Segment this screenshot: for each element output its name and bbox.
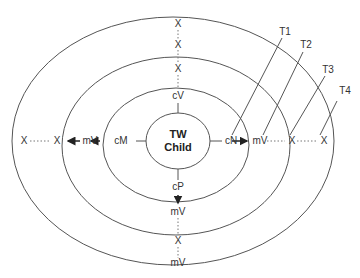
label-top-x2: X: [175, 40, 182, 50]
label-T1: T1: [279, 27, 291, 37]
label-bottom-mV2: mV: [171, 258, 186, 268]
label-T2: T2: [300, 40, 312, 50]
center-label: TW Child: [164, 128, 192, 153]
label-cM: cM: [114, 136, 127, 146]
label-cP: cP: [172, 182, 184, 192]
label-cV: cV: [172, 91, 184, 101]
label-right-x2: X: [321, 136, 328, 146]
label-cN: cN: [225, 136, 237, 146]
label-left-mV: mV: [83, 136, 98, 146]
label-T3: T3: [322, 65, 334, 75]
center-line1: TW: [164, 128, 192, 141]
center-line2: Child: [164, 141, 192, 154]
label-bottom-mV1: mV: [171, 207, 186, 217]
label-right-x1: X: [289, 136, 296, 146]
label-top-x1: X: [175, 19, 182, 29]
label-T4: T4: [339, 86, 351, 96]
label-left-x1: X: [21, 136, 28, 146]
label-top-x3: X: [175, 64, 182, 74]
label-right-mV: mV: [253, 136, 268, 146]
label-left-x2: X: [54, 136, 61, 146]
label-bottom-x: X: [175, 236, 182, 246]
